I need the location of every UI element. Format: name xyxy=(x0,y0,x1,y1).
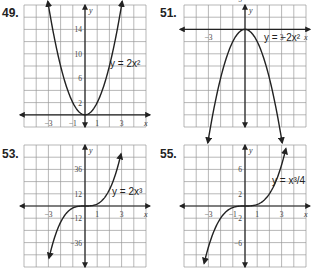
x-tick-label: 3 xyxy=(120,119,124,128)
equation-label: y = x³/4 xyxy=(272,175,306,186)
x-axis-label: x xyxy=(143,119,148,128)
x-tick-label: 3 xyxy=(280,210,284,219)
y-tick-label: 36 xyxy=(75,165,83,174)
x-axis-label: x xyxy=(303,33,308,42)
y-tick-label: 10 xyxy=(75,50,83,59)
y-tick-label: 2 xyxy=(238,190,242,199)
x-tick-label: −3 xyxy=(44,119,52,128)
x-tick-label: 3 xyxy=(120,210,124,219)
y-tick-label: −12 xyxy=(70,214,82,223)
y-tick-label: −36 xyxy=(70,239,82,248)
y-tick-label: 2 xyxy=(78,99,82,108)
y-tick-label: 6 xyxy=(78,74,82,83)
y-tick-label: 12 xyxy=(75,190,83,199)
graph-53: xy−3133612−12−36y = 2x³ xyxy=(20,145,150,267)
x-tick-label: 1 xyxy=(95,210,99,219)
y-axis-label: y xyxy=(88,6,93,15)
equation-label: y = 2x² xyxy=(110,58,141,69)
x-axis-label: x xyxy=(303,210,308,219)
graph-49: xy−3−113261014y = 2x² xyxy=(20,1,150,127)
y-axis-label: y xyxy=(248,6,253,15)
graph-51: xy−33−5−10−15y = −2x² xyxy=(180,0,310,143)
y-tick-label: −5 xyxy=(234,0,242,4)
y-axis-label: y xyxy=(88,146,93,155)
x-tick-label: −1 xyxy=(69,119,77,128)
x-tick-label: 1 xyxy=(95,119,99,128)
x-tick-label: −3 xyxy=(204,210,212,219)
y-tick-label: 6 xyxy=(238,165,242,174)
x-axis-label: x xyxy=(143,210,148,219)
x-tick-label: −3 xyxy=(204,33,212,42)
y-tick-label: −2 xyxy=(234,214,242,223)
x-tick-label: 1 xyxy=(255,210,259,219)
x-tick-label: −3 xyxy=(44,210,52,219)
graph-55: xy−3−11362−2−6y = x³/4 xyxy=(180,145,310,267)
equation-label: y = 2x³ xyxy=(112,186,143,197)
y-axis-label: y xyxy=(248,146,253,155)
graphs-canvas: xy−3−113261014y = 2x² xy−33−5−10−15y = −… xyxy=(0,0,311,279)
y-tick-label: −6 xyxy=(234,239,242,248)
y-tick-label: 14 xyxy=(75,25,83,34)
equation-label: y = −2x² xyxy=(264,32,301,43)
